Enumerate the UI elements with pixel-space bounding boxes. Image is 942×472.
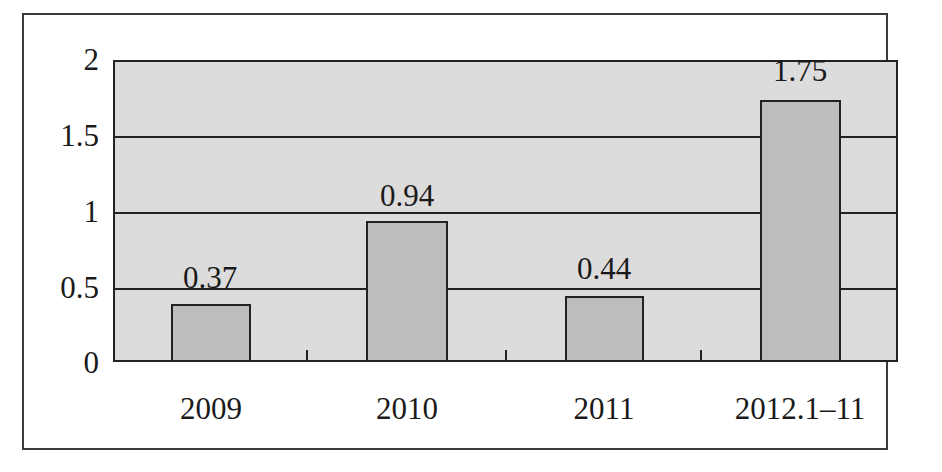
x-tick-label: 2012.1–11 [700, 393, 900, 424]
bar-2011 [565, 296, 644, 362]
data-label: 0.94 [347, 180, 467, 211]
y-tick-label: 1 [84, 196, 100, 227]
x-tick-label: 2011 [504, 393, 704, 424]
data-label: 0.37 [150, 262, 270, 293]
x-tick [505, 350, 507, 360]
x-tick [700, 350, 702, 360]
y-tick-label: 0.5 [60, 272, 99, 303]
data-label: 0.44 [544, 253, 664, 284]
y-tick-label: 0 [84, 347, 100, 378]
y-tick-label: 1.5 [60, 120, 99, 151]
x-tick-label: 2009 [111, 393, 311, 424]
x-tick [306, 350, 308, 360]
bar-2010 [366, 221, 448, 362]
y-tick-label: 2 [84, 44, 100, 75]
data-label: 1.75 [740, 55, 860, 86]
bar-2009 [171, 304, 251, 362]
bar-2012 [760, 100, 841, 362]
x-tick-label: 2010 [307, 393, 507, 424]
